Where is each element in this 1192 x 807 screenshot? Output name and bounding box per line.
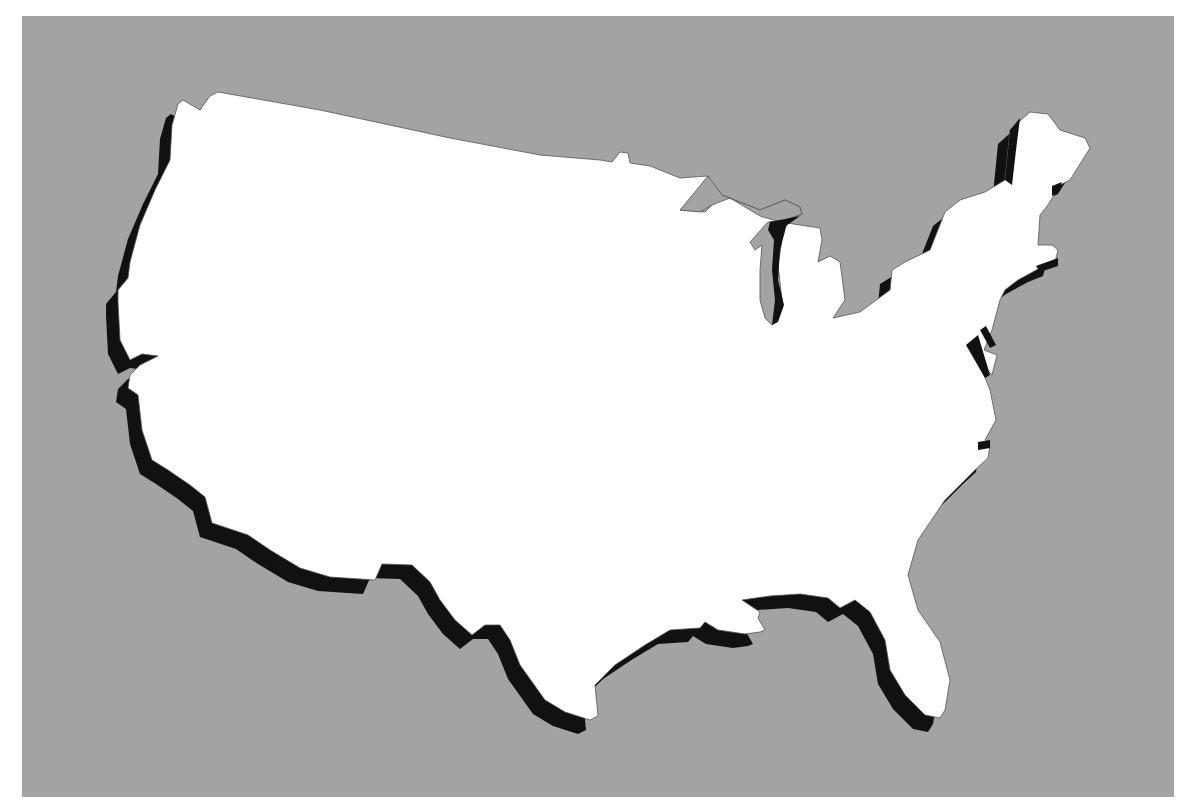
- map-stage: [0, 0, 1192, 807]
- landmass-contiguous-us: [118, 92, 1090, 720]
- us-map: [0, 0, 1192, 807]
